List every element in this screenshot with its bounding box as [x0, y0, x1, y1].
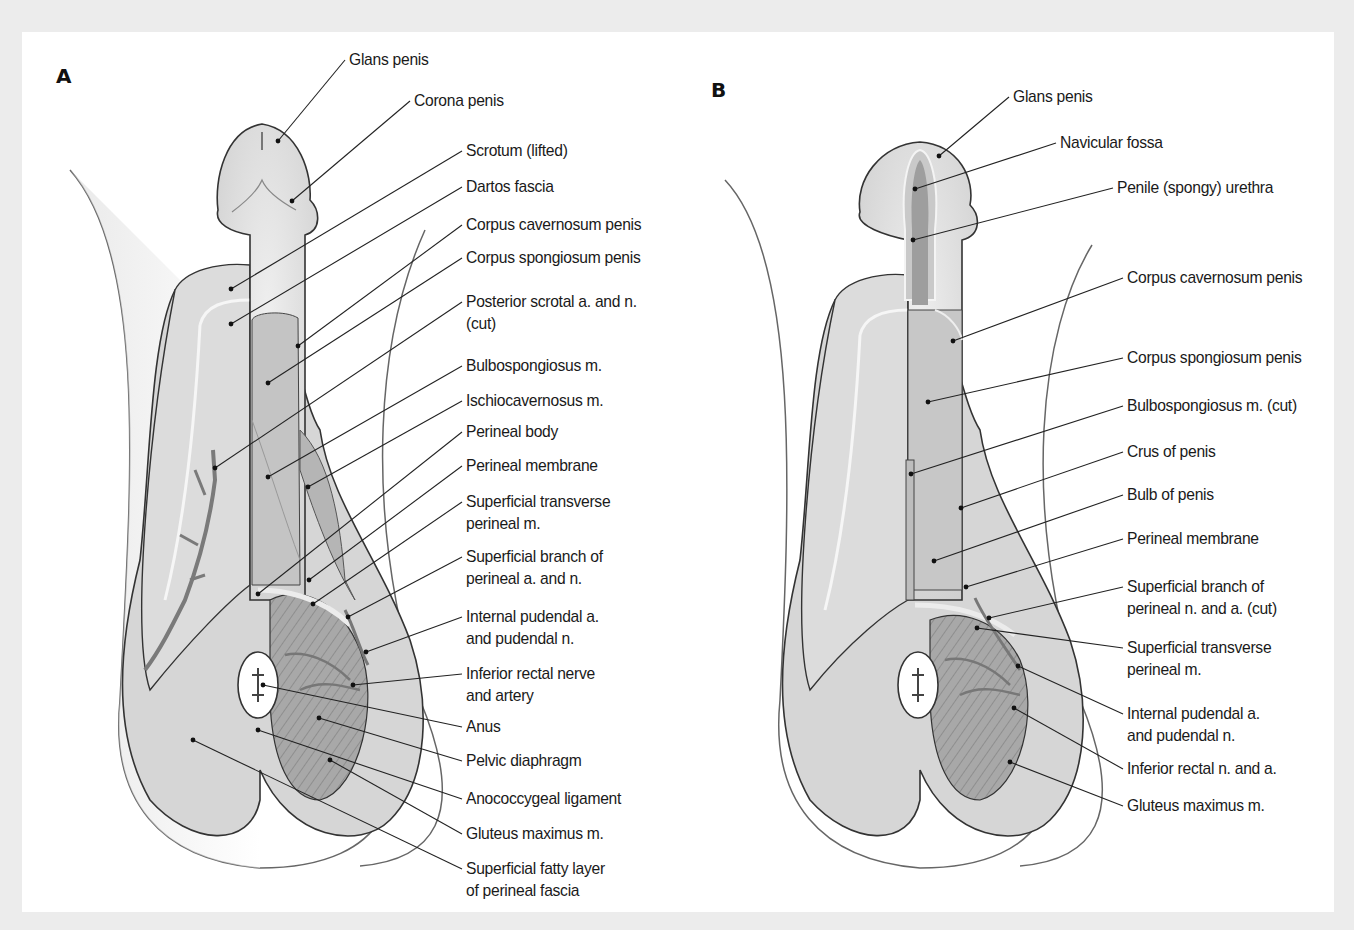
leader-ischiocavernosus [308, 401, 462, 487]
label-line-1: Corpus spongiosum penis [1127, 347, 1301, 369]
pointer-dot [261, 683, 266, 688]
label-bulb-of-penis: Bulb of penis [1127, 484, 1214, 506]
label-line-1: Dartos fascia [466, 176, 554, 198]
panel-b-letter: B [711, 78, 726, 102]
label-line-1: Perineal body [466, 421, 558, 443]
pointer-dot [937, 154, 942, 159]
pointer-dot [346, 615, 351, 620]
label-line-1: Bulbospongiosus m. (cut) [1127, 395, 1297, 417]
panel-b-illustration [725, 142, 1102, 868]
label-line-1: Corona penis [414, 90, 504, 112]
pointer-dot [256, 592, 261, 597]
pointer-dot [317, 716, 322, 721]
pointer-dot [229, 287, 234, 292]
pointer-dot [266, 475, 271, 480]
panel-a-illustration [70, 124, 442, 868]
panel-a-letter: A [56, 64, 71, 88]
label-crus-of-penis: Crus of penis [1127, 441, 1216, 463]
label-bulbospongiosus: Bulbospongiosus m. [466, 355, 602, 377]
label-line-2: and artery [466, 685, 595, 707]
label-penile-urethra: Penile (spongy) urethra [1117, 177, 1273, 199]
leader-corona-penis [292, 101, 410, 201]
pointer-dot [351, 683, 356, 688]
label-inferior-rectal-b: Inferior rectal n. and a. [1127, 758, 1277, 780]
label-line-1: Pelvic diaphragm [466, 750, 582, 772]
label-line-1: Anus [466, 716, 501, 738]
label-line-1: Superficial branch of [1127, 576, 1277, 598]
label-navicular-fossa: Navicular fossa [1060, 132, 1163, 154]
leader-corpus-cavernosum-b [953, 278, 1123, 341]
label-anus: Anus [466, 716, 501, 738]
label-inferior-rectal: Inferior rectal nerveand artery [466, 663, 595, 707]
label-corpus-cavernosum: Corpus cavernosum penis [466, 214, 641, 236]
label-line-1: Superficial fatty layer [466, 858, 605, 880]
label-dartos-fascia: Dartos fascia [466, 176, 554, 198]
leader-glans-penis [278, 60, 345, 141]
pointer-dot [1012, 706, 1017, 711]
label-superficial-transverse-b: Superficial transverseperineal m. [1127, 637, 1271, 681]
label-perineal-body: Perineal body [466, 421, 558, 443]
label-line-1: Corpus cavernosum penis [1127, 267, 1302, 289]
pointer-dot [932, 559, 937, 564]
label-line-2: perineal a. and n. [466, 568, 603, 590]
label-line-1: Perineal membrane [1127, 528, 1259, 550]
label-superficial-branch: Superficial branch ofperineal a. and n. [466, 546, 603, 590]
pointer-dot [364, 650, 369, 655]
label-line-1: Glans penis [1013, 86, 1093, 108]
label-line-1: Gluteus maximus m. [466, 823, 604, 845]
label-glans-penis: Glans penis [349, 49, 429, 71]
label-superficial-fatty-layer: Superficial fatty layerof perineal fasci… [466, 858, 605, 902]
pointer-dot [266, 381, 271, 386]
label-line-1: Superficial transverse [466, 491, 610, 513]
pointer-dot [213, 466, 218, 471]
label-line-1: Internal pudendal a. [1127, 703, 1260, 725]
pointer-dot [964, 585, 969, 590]
label-superficial-branch-b: Superficial branch ofperineal n. and a. … [1127, 576, 1277, 620]
label-line-1: Penile (spongy) urethra [1117, 177, 1273, 199]
label-line-2: of perineal fascia [466, 880, 605, 902]
label-line-2: and pudendal n. [466, 628, 599, 650]
label-line-2: perineal m. [466, 513, 610, 535]
label-line-1: Bulbospongiosus m. [466, 355, 602, 377]
pointer-dot [959, 506, 964, 511]
pointer-dot [911, 238, 916, 243]
label-line-2: and pudendal n. [1127, 725, 1260, 747]
label-internal-pudendal-b: Internal pudendal a.and pudendal n. [1127, 703, 1260, 747]
label-line-1: Glans penis [349, 49, 429, 71]
leader-glans-penis-b [939, 97, 1009, 156]
label-line-2: perineal m. [1127, 659, 1271, 681]
label-line-1: Anococcygeal ligament [466, 788, 621, 810]
label-line-1: Inferior rectal nerve [466, 663, 595, 685]
pointer-dot [191, 738, 196, 743]
pointer-dot [951, 339, 956, 344]
label-line-1: Superficial branch of [466, 546, 603, 568]
pointer-dot [296, 344, 301, 349]
pointer-dot [328, 758, 333, 763]
label-perineal-membrane: Perineal membrane [466, 455, 598, 477]
pointer-dot [1008, 760, 1013, 765]
label-line-1: Ischiocavernosus m. [466, 390, 603, 412]
label-line-2: perineal n. and a. (cut) [1127, 598, 1277, 620]
label-superficial-transverse: Superficial transverseperineal m. [466, 491, 610, 535]
pointer-dot [909, 472, 914, 477]
pointer-dot [987, 616, 992, 621]
label-pelvic-diaphragm: Pelvic diaphragm [466, 750, 582, 772]
pointer-dot [306, 485, 311, 490]
label-anococcygeal-ligament: Anococcygeal ligament [466, 788, 621, 810]
label-line-1: Gluteus maximus m. [1127, 795, 1265, 817]
label-internal-pudendal: Internal pudendal a.and pudendal n. [466, 606, 599, 650]
pointer-dot [256, 728, 261, 733]
label-corpus-cavernosum-b: Corpus cavernosum penis [1127, 267, 1302, 289]
label-line-1: Internal pudendal a. [466, 606, 599, 628]
pointer-dot [926, 400, 931, 405]
label-line-1: Superficial transverse [1127, 637, 1271, 659]
label-corpus-spongiosum: Corpus spongiosum penis [466, 247, 640, 269]
label-bulbospongiosus-cut: Bulbospongiosus m. (cut) [1127, 395, 1297, 417]
pointer-dot [1016, 664, 1021, 669]
label-line-1: Bulb of penis [1127, 484, 1214, 506]
label-line-1: Corpus spongiosum penis [466, 247, 640, 269]
label-gluteus-maximus-b: Gluteus maximus m. [1127, 795, 1265, 817]
label-corona-penis: Corona penis [414, 90, 504, 112]
label-line-2: (cut) [466, 313, 637, 335]
label-ischiocavernosus: Ischiocavernosus m. [466, 390, 603, 412]
